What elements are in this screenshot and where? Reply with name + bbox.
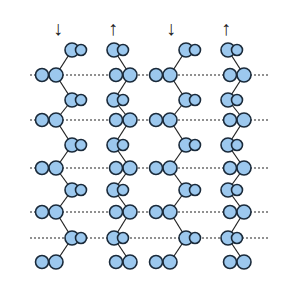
atom: [49, 113, 63, 127]
atom: [150, 162, 163, 175]
atom: [224, 206, 237, 219]
atom: [118, 233, 129, 244]
atom: [224, 162, 237, 175]
atom: [49, 68, 63, 82]
atom: [163, 113, 177, 127]
atom: [163, 255, 177, 269]
atom: [163, 68, 177, 82]
atom: [163, 161, 177, 175]
atom: [232, 95, 243, 106]
atom: [110, 256, 123, 269]
atom: [190, 185, 201, 196]
atom: [76, 95, 87, 106]
atom: [232, 185, 243, 196]
atom: [232, 233, 243, 244]
atom: [123, 113, 137, 127]
atom: [110, 206, 123, 219]
atom: [224, 114, 237, 127]
atom: [150, 114, 163, 127]
atom: [49, 205, 63, 219]
atom: [237, 113, 251, 127]
atom: [237, 68, 251, 82]
atom: [110, 69, 123, 82]
atom: [49, 255, 63, 269]
atom: [224, 256, 237, 269]
atom: [224, 69, 237, 82]
atom: [237, 205, 251, 219]
atom: [36, 114, 49, 127]
atom: [190, 45, 201, 56]
atom: [150, 256, 163, 269]
atom: [163, 205, 177, 219]
atom: [237, 255, 251, 269]
atom: [49, 161, 63, 175]
atom: [118, 95, 129, 106]
atom: [118, 45, 129, 56]
atom: [118, 185, 129, 196]
atom: [123, 161, 137, 175]
atom: [190, 95, 201, 106]
atom: [110, 162, 123, 175]
atom: [76, 45, 87, 56]
atom: [36, 256, 49, 269]
atom: [123, 255, 137, 269]
atom: [76, 185, 87, 196]
atom: [150, 69, 163, 82]
atom: [36, 69, 49, 82]
atom: [118, 140, 129, 151]
atom: [150, 206, 163, 219]
atom: [76, 140, 87, 151]
atom: [123, 68, 137, 82]
atom: [123, 205, 137, 219]
atom: [76, 233, 87, 244]
beta-sheet-diagram: [0, 0, 293, 292]
atom: [190, 140, 201, 151]
atom: [232, 45, 243, 56]
atom: [36, 206, 49, 219]
atom: [36, 162, 49, 175]
atom: [110, 114, 123, 127]
atom: [190, 233, 201, 244]
atom: [237, 161, 251, 175]
atom: [232, 140, 243, 151]
